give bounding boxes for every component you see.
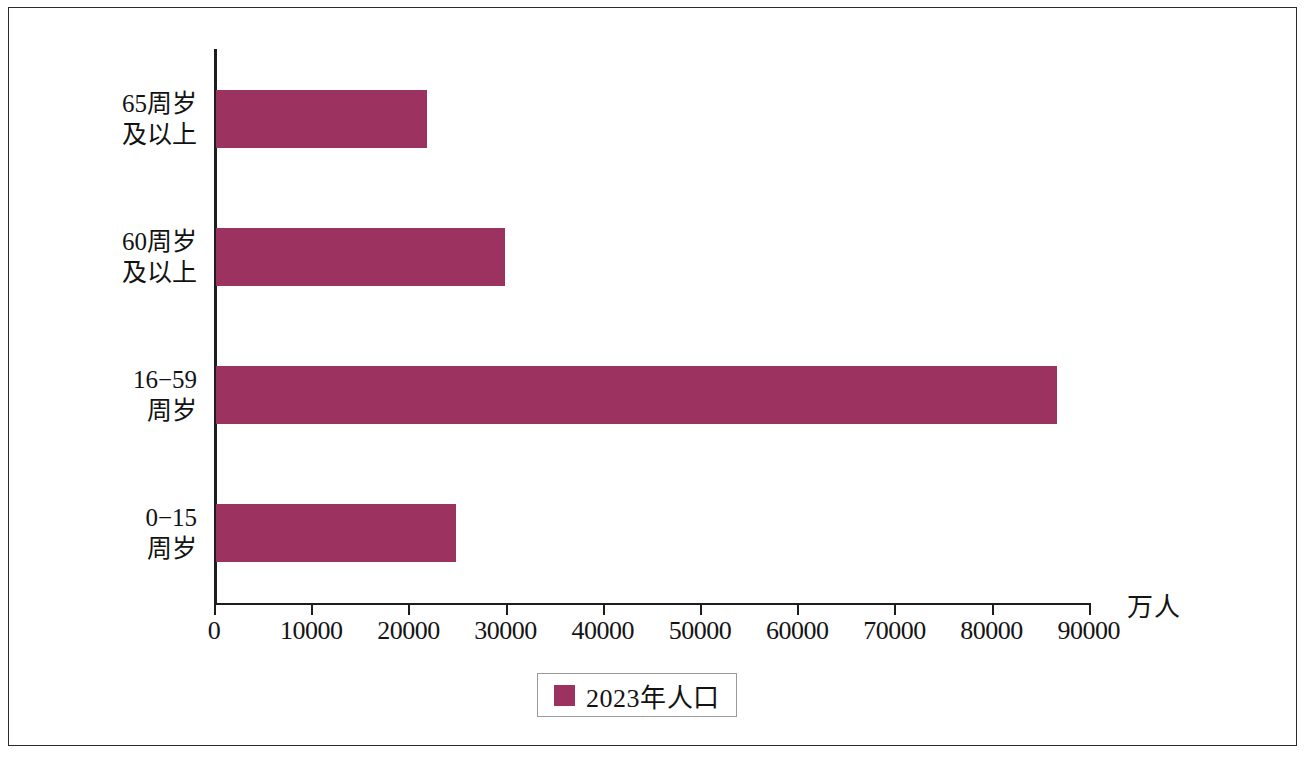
- bar: [216, 90, 427, 148]
- category-label: 0−15 周岁: [17, 502, 197, 564]
- bar: [216, 366, 1057, 424]
- bar: [216, 228, 505, 286]
- category-label: 60周岁 及以上: [17, 226, 197, 288]
- x-axis-tick: [408, 604, 410, 615]
- x-axis-tick: [992, 604, 994, 615]
- plot-area: 0100002000030000400005000060000700008000…: [9, 8, 1296, 745]
- x-axis-tick: [700, 604, 702, 615]
- x-axis-tick: [506, 604, 508, 615]
- x-axis-line: [214, 603, 1091, 605]
- x-axis-tick: [797, 604, 799, 615]
- x-axis-tick: [894, 604, 896, 615]
- x-axis-tick: [1089, 604, 1091, 615]
- x-axis-tick: [603, 604, 605, 615]
- legend-swatch-icon: [554, 685, 575, 706]
- chart-legend: 2023年人口: [537, 673, 737, 717]
- category-label: 16−59 周岁: [17, 364, 197, 426]
- x-axis-unit-label: 万人: [1127, 586, 1181, 623]
- chart-frame: 0100002000030000400005000060000700008000…: [8, 7, 1297, 746]
- category-label: 65周岁 及以上: [17, 88, 197, 150]
- legend-label: 2023年人口: [586, 677, 720, 714]
- x-axis-tick: [214, 604, 216, 615]
- x-axis-tick: [311, 604, 313, 615]
- bar: [216, 504, 456, 562]
